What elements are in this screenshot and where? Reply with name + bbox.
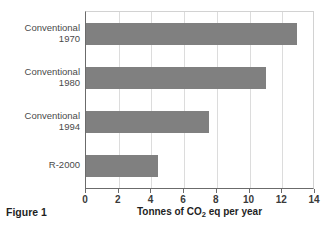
bar-series xyxy=(86,12,313,188)
x-axis-tick-label: 12 xyxy=(269,194,293,205)
bar xyxy=(86,155,158,177)
x-axis-tick-label: 4 xyxy=(138,194,162,205)
category-label-line1: Conventional xyxy=(0,66,80,78)
x-axis-title-before: Tonnes of CO xyxy=(137,206,202,217)
category-label: Conventional1970 xyxy=(0,22,80,45)
x-axis-tick xyxy=(183,189,184,193)
x-axis-tick xyxy=(150,189,151,193)
x-axis-tick-label: 8 xyxy=(204,194,228,205)
figure-container: Conventional1970Conventional1980Conventi… xyxy=(0,0,324,225)
x-axis-tick-label: 6 xyxy=(171,194,195,205)
category-label-line2: 1980 xyxy=(0,77,80,89)
category-label-line1: Conventional xyxy=(0,22,80,34)
x-axis-tick xyxy=(85,189,86,193)
x-axis-title: Tonnes of CO2 eq per year xyxy=(85,206,314,217)
x-axis-title-subscript: 2 xyxy=(202,210,206,219)
x-axis-tick xyxy=(281,189,282,193)
x-axis-tick xyxy=(216,189,217,193)
x-axis-tick xyxy=(314,189,315,193)
bar xyxy=(86,67,266,89)
plot-area xyxy=(85,11,314,189)
category-label: Conventional1994 xyxy=(0,110,80,133)
bar-row xyxy=(86,23,297,45)
bar xyxy=(86,23,297,45)
category-label: Conventional1980 xyxy=(0,66,80,89)
bar xyxy=(86,111,209,133)
category-label-line2: 1970 xyxy=(0,33,80,45)
x-axis-tick xyxy=(118,189,119,193)
category-label-line1: Conventional xyxy=(0,110,80,122)
x-axis-tick xyxy=(249,189,250,193)
category-label-line1: R-2000 xyxy=(0,159,80,171)
figure-caption: Figure 1 xyxy=(6,206,47,218)
x-axis-tick-label: 10 xyxy=(237,194,261,205)
bar-row xyxy=(86,155,158,177)
category-label: R-2000 xyxy=(0,159,80,171)
x-axis-tick-label: 0 xyxy=(73,194,97,205)
x-axis-title-after: eq per year xyxy=(206,206,262,217)
bar-row xyxy=(86,111,209,133)
bar-row xyxy=(86,67,266,89)
x-axis-tick-label: 14 xyxy=(302,194,324,205)
x-axis-tick-label: 2 xyxy=(106,194,130,205)
category-label-line2: 1994 xyxy=(0,121,80,133)
